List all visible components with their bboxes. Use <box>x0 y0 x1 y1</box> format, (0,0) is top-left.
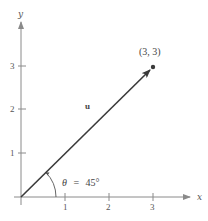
y-tick-label-3: 3 <box>10 61 15 71</box>
equals-sign: = <box>73 177 79 188</box>
x-tick-label-2: 2 <box>106 202 111 212</box>
angle-label: θ = 45° <box>62 177 100 188</box>
vector-diagram: x y 1 2 3 1 2 3 (3, 3) u θ = 45° <box>0 0 208 221</box>
y-axis-label: y <box>17 9 24 19</box>
angle-arc <box>46 172 56 197</box>
x-tick-label-1: 1 <box>63 202 68 212</box>
endpoint-dot <box>151 65 155 69</box>
vector-u-label: u <box>85 101 90 111</box>
angle-value: 45° <box>86 177 100 188</box>
endpoint-label: (3, 3) <box>139 46 161 58</box>
theta-symbol: θ <box>62 177 67 188</box>
x-axis-label: x <box>197 192 202 202</box>
y-tick-label-1: 1 <box>10 148 15 158</box>
y-tick-label-2: 2 <box>10 104 15 114</box>
x-tick-label-3: 3 <box>150 202 155 212</box>
